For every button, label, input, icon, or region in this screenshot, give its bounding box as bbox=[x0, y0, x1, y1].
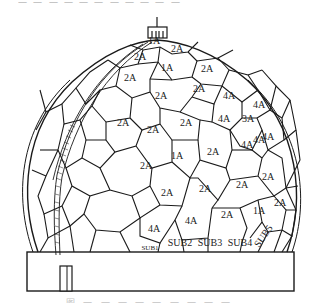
panel-labels: 1A2A2A1A2A2A2A2A4A4A2A2A4A3A4A2A2A1A2A4A… bbox=[117, 35, 287, 234]
door-icon bbox=[60, 266, 72, 291]
panel-label: 2A bbox=[180, 117, 193, 128]
panel-label: 2A bbox=[262, 171, 275, 182]
panel-label: 2A bbox=[155, 90, 168, 101]
panel-label: 2A bbox=[193, 83, 206, 94]
panel-label: 2A bbox=[221, 209, 234, 220]
panel-label: 2A bbox=[140, 160, 153, 171]
panel-label: 2A bbox=[274, 197, 287, 208]
panel-label: 1A bbox=[253, 205, 266, 216]
panel-label: 2A bbox=[207, 146, 220, 157]
panel-label: 2A bbox=[201, 63, 214, 74]
panel-label: 2A bbox=[161, 187, 174, 198]
sub-panel-label: SUB5 bbox=[252, 223, 275, 249]
sub-panel-label: SUB1 bbox=[141, 244, 159, 252]
panel-label: 3A bbox=[242, 113, 255, 124]
panel-label: 2A bbox=[236, 179, 249, 190]
panel-label: 4A bbox=[241, 139, 254, 150]
panel-label: 1A bbox=[161, 62, 174, 73]
panel-label: 2A bbox=[147, 124, 160, 135]
panel-label: 2A bbox=[134, 51, 147, 62]
panel-label: 4A bbox=[218, 113, 231, 124]
sub-panel-label: SUB3 bbox=[198, 237, 222, 248]
hex-panel-grid bbox=[32, 42, 300, 252]
panel-label: 4A bbox=[185, 215, 198, 226]
sub-panel-label: SUB4 bbox=[228, 237, 252, 248]
panel-label: 4A bbox=[262, 131, 275, 142]
panel-label: 4A bbox=[253, 99, 266, 110]
panel-label: 4A bbox=[223, 90, 236, 101]
panel-label: 2A bbox=[124, 72, 137, 83]
sub-panel-label: SUB2 bbox=[168, 237, 192, 248]
radome-diagram: 1A2A2A1A2A2A2A2A4A4A2A2A4A3A4A2A2A1A2A4A… bbox=[0, 0, 315, 303]
panel-label: 1A bbox=[171, 150, 184, 161]
panel-label: 2A bbox=[117, 117, 130, 128]
figure-caption: 图 一 一 一 一 一 一 一 一 一 bbox=[66, 296, 256, 303]
sub-panel-labels: SUB1SUB2SUB3SUB4SUB5 bbox=[141, 223, 274, 252]
panel-label: 2A bbox=[171, 43, 184, 54]
panel-label: 2A bbox=[199, 183, 212, 194]
panel-label: 4A bbox=[148, 223, 161, 234]
panel-label: 1A bbox=[148, 35, 161, 46]
